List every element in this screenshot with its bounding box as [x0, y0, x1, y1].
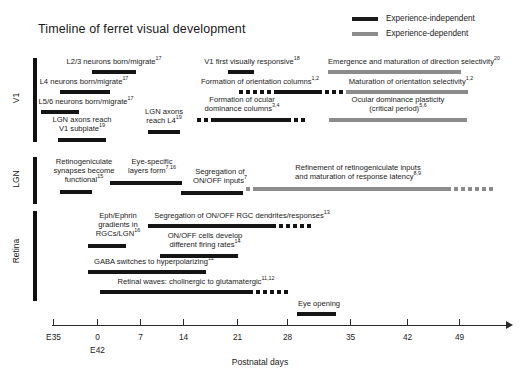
event-bar-eye-opening — [297, 312, 336, 316]
timeline-axis-line — [52, 325, 507, 326]
event-bar-eye-specific-layers-form — [110, 181, 182, 185]
event-label-segregation-onoff-inputs: Segregation ofON/OFF inputs7 — [180, 168, 260, 186]
event-bar-segregation-onoff-inputs — [181, 191, 243, 195]
figure-title: Timeline of ferret visual development — [38, 22, 246, 36]
timeline-tick-label: 21 — [217, 332, 258, 342]
legend-label-experience-independent: Experience-independent — [386, 14, 475, 23]
event-label-l56-neurons-born-migrate: L5/6 neurons born/migrate17 — [26, 98, 146, 107]
event-label-gaba-switches-hyperpolarizing: GABA switches to hyperpolarizing12 — [78, 258, 230, 267]
event-label-maturation-orientation-selectivity: Maturation of orientation selectivity1,2 — [332, 78, 490, 87]
timeline-tick-label: 7 — [120, 332, 161, 342]
event-label-ocular-dominance-plasticity: Ocular dominance plasticity(critical per… — [308, 96, 488, 114]
timeline-tick-label: E35 — [33, 332, 74, 342]
timeline-tick — [97, 319, 98, 326]
ferret-visual-development-timeline-figure: Timeline of ferret visual development Ex… — [0, 0, 531, 374]
timeline-tick — [287, 319, 288, 326]
event-bar-segregation-onoff-rgc-dendrites — [148, 224, 314, 229]
event-bar-l4-neurons-born-migrate — [60, 90, 110, 94]
event-bar-retinogeniculate-synapses-functional — [60, 190, 92, 194]
timeline-tick-sublabel: E42 — [77, 345, 118, 355]
axis-title: Postnatal days — [180, 357, 340, 367]
event-label-onoff-cells-firing-rates: ON/OFF cells developdifferent firing rat… — [150, 232, 260, 250]
event-bar-eph-ephrin-gradients — [88, 244, 126, 248]
event-label-retinal-waves-cholinergic-glutamatergic: Retinal waves: cholinergic to glutamater… — [100, 278, 292, 287]
section-label-lgn: LGN — [11, 155, 21, 203]
timeline-tick-label: 35 — [330, 332, 371, 342]
timeline-axis-arrow-icon — [506, 321, 513, 329]
event-label-lgn-axons-reach-l4: LGN axonsreach L419 — [134, 108, 194, 126]
event-label-l4-neurons-born-migrate: L4 neurons born/migrate17 — [28, 78, 140, 87]
section-label-v1: V1 — [11, 74, 21, 122]
event-label-segregation-onoff-rgc-dendrites: Segregation of ON/OFF RGC dendrites/resp… — [138, 212, 346, 221]
timeline-tick — [183, 319, 184, 326]
timeline-tick — [459, 319, 460, 326]
timeline-tick-label: 42 — [387, 332, 428, 342]
event-bar-retinal-waves-cholinergic-glutamatergic — [100, 290, 291, 295]
timeline-tick — [53, 319, 54, 326]
timeline-tick-label: 28 — [267, 332, 308, 342]
event-label-eye-opening: Eye opening — [288, 300, 350, 309]
event-label-refinement-retinogeniculate-inputs: Refinement of retinogeniculate inputsand… — [270, 164, 446, 182]
legend: Experience-independent Experience-depend… — [352, 14, 475, 38]
legend-label-experience-dependent: Experience-dependent — [386, 29, 468, 38]
event-bar-direction-selectivity — [328, 70, 461, 74]
event-label-l23-neurons-born-migrate: L2/3 neurons born/migrate17 — [54, 58, 174, 67]
event-bar-maturation-orientation-selectivity — [346, 90, 468, 94]
event-bar-l23-neurons-born-migrate — [92, 70, 136, 74]
legend-item-experience-independent: Experience-independent — [352, 14, 475, 23]
event-bar-ocular-dominance-plasticity — [329, 118, 467, 122]
section-label-retina: Retina — [11, 227, 21, 275]
timeline-tick-label: 14 — [163, 332, 204, 342]
event-label-formation-orientation-columns: Formation of orientation columns1,2 — [190, 78, 330, 87]
event-label-direction-selectivity: Emergence and maturation of direction se… — [308, 58, 520, 67]
event-label-v1-first-visually-responsive: V1 first visually responsive18 — [190, 58, 314, 67]
event-bar-lgn-axons-reach-v1-subplate — [58, 138, 106, 142]
timeline-tick — [237, 319, 238, 326]
event-bar-l56-neurons-born-migrate — [41, 110, 79, 114]
timeline-tick — [140, 319, 141, 326]
timeline-tick-label: 0 — [77, 332, 118, 342]
event-bar-refinement-retinogeniculate-inputs — [246, 187, 496, 192]
event-bar-gaba-switches-hyperpolarizing — [88, 270, 206, 274]
event-bar-v1-first-visually-responsive — [228, 70, 254, 74]
timeline-tick — [350, 319, 351, 326]
event-label-lgn-axons-reach-v1-subplate: LGN axons reachV1 subplate19 — [36, 116, 128, 134]
event-bar-formation-ocular-dominance-columns — [197, 118, 308, 123]
timeline-tick — [407, 319, 408, 326]
timeline-tick-label: 49 — [439, 332, 480, 342]
legend-swatch-black-icon — [352, 17, 378, 21]
legend-item-experience-dependent: Experience-dependent — [352, 29, 475, 38]
event-label-formation-ocular-dominance-columns: Formation of oculardominance columns3,4 — [186, 96, 298, 114]
event-bar-lgn-axons-reach-l4 — [148, 130, 180, 134]
legend-swatch-gray-icon — [352, 32, 378, 36]
section-bar-retina — [33, 211, 37, 301]
